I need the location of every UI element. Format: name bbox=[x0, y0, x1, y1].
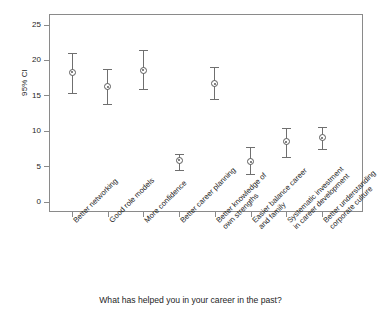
error-bar-lower-cap bbox=[318, 149, 327, 150]
error-bar-upper-cap bbox=[103, 69, 112, 70]
error-bar-upper-cap bbox=[139, 50, 148, 51]
y-tick-label: 15 bbox=[16, 90, 41, 101]
error-bar-lower-cap bbox=[210, 99, 219, 100]
chart-container: 95% CI 0510152025 Better networkingGood … bbox=[0, 0, 381, 317]
data-point-marker bbox=[176, 157, 183, 164]
error-bar-lower-cap bbox=[282, 157, 291, 158]
error-bar-upper-cap bbox=[318, 127, 327, 128]
data-point-marker bbox=[319, 134, 326, 141]
error-bar-lower-cap bbox=[175, 170, 184, 171]
y-tick-label: 20 bbox=[16, 54, 41, 65]
y-tick-label: 5 bbox=[16, 161, 41, 172]
error-bar-lower-cap bbox=[246, 174, 255, 175]
y-tick-mark bbox=[44, 202, 49, 203]
plot-area bbox=[49, 14, 363, 212]
y-tick-mark bbox=[44, 131, 49, 132]
y-tick-mark bbox=[44, 25, 49, 26]
data-point-marker bbox=[140, 67, 147, 74]
x-axis-title: What has helped you in your career in th… bbox=[0, 295, 381, 305]
error-bar-upper-cap bbox=[210, 67, 219, 68]
error-bar-upper-cap bbox=[282, 128, 291, 129]
error-bar-lower-cap bbox=[139, 89, 148, 90]
error-bar-upper-cap bbox=[175, 154, 184, 155]
error-bar-upper-cap bbox=[246, 147, 255, 148]
y-tick-mark bbox=[44, 95, 49, 96]
y-tick-mark bbox=[44, 60, 49, 61]
y-tick-mark bbox=[44, 166, 49, 167]
error-bar-lower-cap bbox=[103, 104, 112, 105]
error-bar-lower-cap bbox=[68, 93, 77, 94]
data-point-marker bbox=[69, 69, 76, 76]
y-tick-label: 25 bbox=[16, 19, 41, 30]
y-tick-label: 10 bbox=[16, 125, 41, 136]
y-tick-label: 0 bbox=[16, 196, 41, 207]
error-bar-upper-cap bbox=[68, 53, 77, 54]
